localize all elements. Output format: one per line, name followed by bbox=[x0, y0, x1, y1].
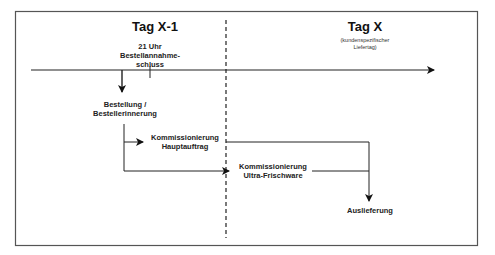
diagram-canvas bbox=[0, 0, 495, 255]
cutoff-label-1: 21 Uhr bbox=[100, 42, 200, 51]
delivery-label: Auslieferung bbox=[335, 206, 405, 215]
pick-main-label-2: Hauptauftrag bbox=[140, 142, 230, 151]
right-day-subtitle-1: (kundenspezifischer bbox=[310, 37, 420, 44]
pick-main-label-1: Kommissionierung bbox=[140, 133, 230, 142]
pick-fresh-label-1: Kommissionierung bbox=[228, 162, 318, 171]
left-day-title: Tag X-1 bbox=[100, 19, 210, 34]
order-label-1: Bestellung / bbox=[75, 100, 175, 109]
order-label-2: Bestellerinnerung bbox=[75, 109, 175, 118]
cutoff-label-2: Bestellannahme- bbox=[100, 51, 200, 60]
pick-fresh-label-2: Ultra-Frischware bbox=[228, 171, 318, 180]
right-day-title: Tag X bbox=[320, 19, 410, 34]
right-day-subtitle-2: Liefertag) bbox=[310, 44, 420, 51]
cutoff-label-3: schluss bbox=[100, 60, 200, 69]
